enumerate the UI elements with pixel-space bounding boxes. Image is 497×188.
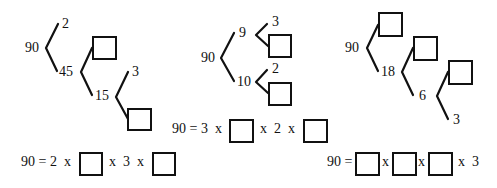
tree3-blank-box-a[interactable] — [378, 12, 403, 37]
tree3-branch-90 — [367, 25, 378, 71]
tree2-factor-10: 10 — [237, 75, 251, 89]
tree2-branch-90 — [221, 33, 234, 81]
tree1-root-90: 90 — [25, 41, 39, 55]
tree3-equation-prefix: 90 = — [327, 155, 352, 169]
tree2-factor-9: 9 — [239, 26, 246, 40]
tree3-equation-times-2: x — [418, 155, 425, 169]
tree1-blank-box-a[interactable] — [92, 36, 117, 60]
tree2-equation-middle: x 2 x — [260, 122, 295, 136]
tree3-equation-blank-3[interactable] — [428, 152, 453, 176]
tree3-equation-blank-2[interactable] — [392, 152, 417, 176]
tree1-branch-45 — [81, 48, 92, 95]
tree1-factor-2: 2 — [62, 17, 69, 31]
tree1-factor-15: 15 — [95, 89, 109, 103]
tree2-blank-box-a[interactable] — [268, 34, 292, 58]
tree2-blank-box-b[interactable] — [268, 82, 292, 106]
tree2-factor-3: 3 — [272, 15, 279, 29]
tree3-blank-box-b[interactable] — [413, 36, 438, 61]
tree1-factor-45: 45 — [59, 65, 73, 79]
tree3-root-90: 90 — [345, 41, 359, 55]
tree1-equation-blank-2[interactable] — [152, 152, 176, 176]
tree2-branch-9 — [256, 24, 268, 46]
tree2-equation-blank-2[interactable] — [303, 119, 328, 143]
tree2-equation-blank-1[interactable] — [229, 119, 254, 143]
tree1-equation-middle: x 3 x — [109, 155, 144, 169]
tree3-equation-blank-1[interactable] — [355, 152, 380, 176]
tree3-factor-18: 18 — [381, 65, 395, 79]
tree2-factor-2: 2 — [272, 62, 279, 76]
tree2-equation-prefix: 90 = 3 x — [172, 122, 222, 136]
tree1-equation-prefix: 90 = 2 x — [21, 155, 71, 169]
tree1-factor-3: 3 — [132, 65, 139, 79]
tree3-equation-times-1: x — [382, 155, 389, 169]
tree3-factor-3: 3 — [453, 113, 460, 127]
tree3-branch-6 — [437, 72, 448, 119]
tree2-root-90: 90 — [201, 51, 215, 65]
tree1-blank-box-b[interactable] — [127, 108, 152, 131]
factor-trees-worksheet: 90 2 45 15 3 90 = 2 x x 3 x 90 9 10 3 2 … — [0, 0, 497, 188]
tree3-blank-box-c[interactable] — [448, 60, 473, 85]
tree3-equation-suffix: x 3 — [458, 155, 479, 169]
tree1-branch-90 — [46, 24, 58, 71]
tree3-branch-18 — [402, 48, 413, 95]
tree2-branch-10 — [256, 70, 268, 93]
tree1-equation-blank-1[interactable] — [79, 152, 103, 176]
tree3-factor-6: 6 — [419, 89, 426, 103]
